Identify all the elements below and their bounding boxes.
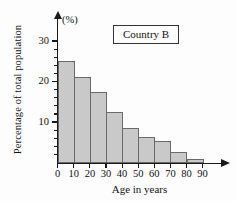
x-tick-label-90: 90 [192,169,214,180]
x-tick-20 [89,163,90,168]
x-tick-30 [105,163,106,168]
x-tick-60 [154,163,155,168]
x-axis-arrow-icon [221,159,230,167]
x-tick-10 [73,163,74,168]
bar-60-70 [154,141,171,163]
bar-20-30 [90,92,107,162]
x-axis-title: Age in years [57,183,222,195]
x-tick-0 [57,163,58,168]
y-tick-label-30: 30 [15,36,49,47]
y-minor-tick-26 [54,57,59,58]
bar-10-20 [74,77,91,163]
bar-0-10 [58,61,75,163]
y-minor-tick-28 [54,49,59,50]
x-tick-50 [138,163,139,168]
bar-80-90 [187,159,204,162]
chart-title-box: Country B [113,25,179,44]
y-axis-arrow-icon [54,11,62,19]
y-tick-label-20: 20 [15,76,49,87]
bar-70-80 [170,152,187,163]
plot-area: 102030 0102030405060708090 (%) Country B [0,0,237,201]
x-tick-70 [170,163,171,168]
x-tick-40 [122,163,123,168]
bar-40-50 [122,128,139,163]
x-tick-90 [202,163,203,168]
y-tick-30 [52,40,58,41]
bar-50-60 [138,137,155,163]
bar-30-40 [106,112,123,163]
x-tick-80 [186,163,187,168]
x-axis-line [57,163,222,164]
chart-figure: Percentage of total population 102030 01… [0,0,237,201]
y-tick-label-10: 10 [15,117,49,128]
unit-label: (%) [62,14,78,25]
